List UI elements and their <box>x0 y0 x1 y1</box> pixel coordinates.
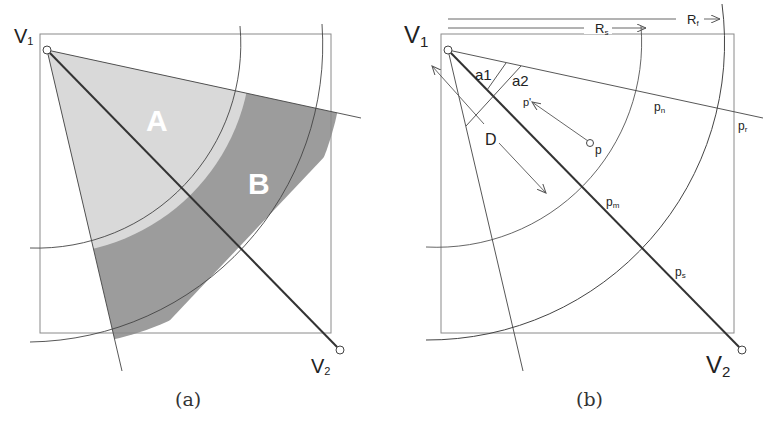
point-p-marker <box>587 140 594 147</box>
p-to-pprime-arrow <box>532 102 588 141</box>
angle-a2-label: a2 <box>512 72 529 89</box>
region-a-label: A <box>146 104 168 137</box>
point-pm-label: pm <box>606 195 620 210</box>
point-p-label: p <box>595 143 602 157</box>
caption-a: (a) <box>175 388 201 410</box>
panel-b: Rs Rf V1 V2 a1 a2 D p' p pn pr pm ps (b) <box>404 4 763 410</box>
region-b-label: B <box>248 167 270 200</box>
arc-rf <box>426 4 725 340</box>
upper-ray <box>448 50 763 118</box>
vertex-v1-marker <box>444 46 452 54</box>
panel-a: V1 V2 A B (a) <box>0 0 361 410</box>
angle-a1-label: a1 <box>475 66 492 83</box>
vertex-v2-label: V2 <box>706 351 730 380</box>
d-arrow-down <box>499 143 546 193</box>
caption-b: (b) <box>576 388 603 410</box>
point-ps-label: ps <box>675 265 686 280</box>
lower-ray <box>448 50 523 371</box>
point-p-prime-label: p' <box>523 96 531 108</box>
vertex-v2-label: V2 <box>311 355 330 377</box>
point-pr-label: pr <box>738 119 748 134</box>
vertex-v2-marker <box>336 346 344 354</box>
point-pn-label: pn <box>654 100 665 115</box>
vertex-v1-label: V1 <box>14 25 33 47</box>
figure-canvas: V1 V2 A B (a) Rs Rf V1 V2 a1 <box>0 0 773 432</box>
vertex-v1-label: V1 <box>404 21 428 50</box>
distance-d-label: D <box>485 131 497 148</box>
vertex-v2-marker <box>738 346 746 354</box>
view-direction-line <box>448 50 742 350</box>
vertex-v1-marker <box>43 46 51 54</box>
